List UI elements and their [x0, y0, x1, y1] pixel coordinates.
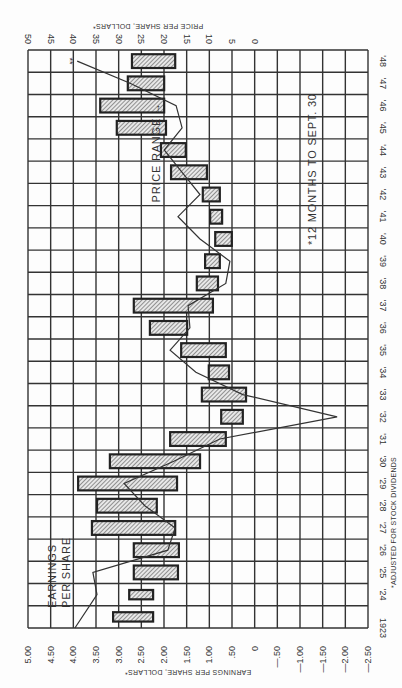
- year-label: '26: [378, 544, 388, 556]
- price-range-bar: [197, 277, 218, 291]
- earnings-tick: 2.00: [159, 646, 169, 664]
- earnings-tick: 5.00: [23, 646, 33, 664]
- year-label: '42: [378, 189, 388, 201]
- earnings-tick: 3.50: [91, 646, 101, 664]
- year-label: 1923: [378, 618, 388, 638]
- earnings-tick: —.50: [272, 646, 282, 668]
- earnings-tick: —2.50: [363, 646, 373, 673]
- price-tick: 25: [136, 34, 146, 44]
- year-label: '37: [378, 300, 388, 312]
- price-range-bar: [181, 343, 226, 357]
- price-range-bar: [134, 299, 213, 313]
- earnings-tick: 4.50: [46, 646, 56, 664]
- footnote: *ADJUSTED FOR STOCK DIVIDENDS: [390, 457, 397, 588]
- price-range-bar: [150, 321, 187, 335]
- price-range-bar: [210, 210, 222, 224]
- year-label: '35: [378, 344, 388, 356]
- year-label: '40: [378, 233, 388, 245]
- earnings-tick: 0: [250, 646, 260, 651]
- earnings-axis-title: EARNINGS PER SHARE, DOLLARS*: [125, 669, 252, 676]
- year-label: '28: [378, 500, 388, 512]
- year-label: '25: [378, 567, 388, 579]
- year-label: '32: [378, 411, 388, 423]
- year-label: '34: [378, 366, 388, 378]
- earnings-label: EARNINGS: [46, 544, 58, 608]
- double-star-marker: **: [65, 58, 75, 66]
- year-label: '29: [378, 478, 388, 490]
- price-range-bar: [92, 521, 175, 535]
- earnings-tick: —1.50: [318, 646, 328, 673]
- price-tick: 50: [23, 34, 33, 44]
- price-range-bar: [129, 590, 153, 599]
- price-tick: 5: [227, 39, 237, 44]
- year-label: '45: [378, 122, 388, 134]
- year-label: '39: [378, 255, 388, 267]
- year-label: '33: [378, 389, 388, 401]
- price-tick: 20: [159, 34, 169, 44]
- year-label: '38: [378, 278, 388, 290]
- price-tick: 40: [68, 34, 78, 44]
- earnings-tick: .50: [227, 646, 237, 659]
- year-label: '48: [378, 55, 388, 67]
- earnings-tick: 3.00: [114, 646, 124, 664]
- price-range-bar: [132, 54, 175, 68]
- price-range-bar: [203, 188, 220, 202]
- chart-stage: 5.004.504.003.503.002.502.001.501.00.500…: [0, 0, 402, 688]
- price-range-bar: [215, 232, 232, 246]
- year-label: '31: [378, 433, 388, 445]
- earnings-tick: 4.00: [68, 646, 78, 664]
- price-range-bar: [205, 254, 220, 268]
- price-tick: 15: [182, 34, 192, 44]
- year-label: '30: [378, 455, 388, 467]
- year-label: '47: [378, 77, 388, 89]
- year-label: '44: [378, 144, 388, 156]
- price-range-bar: [134, 566, 178, 580]
- price-range-bar: [134, 543, 179, 557]
- price-range-bar: [202, 388, 246, 402]
- year-label: '36: [378, 322, 388, 334]
- year-label: '24: [378, 589, 388, 601]
- price-range-bar: [78, 477, 177, 491]
- price-range-bar: [113, 612, 153, 621]
- price-tick: 0: [250, 39, 260, 44]
- earnings-tick: 1.00: [204, 646, 214, 664]
- price-range-bar: [209, 365, 229, 379]
- price-range-bar: [221, 410, 243, 424]
- price-tick: 10: [204, 34, 214, 44]
- earnings-tick: 1.50: [182, 646, 192, 664]
- earnings-label: PER SHARE: [60, 537, 72, 608]
- price-tick: 45: [46, 34, 56, 44]
- price-range-bar: [171, 165, 207, 179]
- year-label: '46: [378, 100, 388, 112]
- earnings-tick: —2.00: [340, 646, 350, 673]
- price-axis-title: PRICE PER SHARE, DOLLARS*: [93, 23, 204, 30]
- price-range-bar: [110, 454, 200, 468]
- earnings-tick: 2.50: [136, 646, 146, 664]
- price-tick: 30: [114, 34, 124, 44]
- year-label: '41: [378, 211, 388, 223]
- price-range-bar: [97, 499, 157, 513]
- months-note: *12 MONTHS TO SEPT. 30: [306, 93, 318, 245]
- price-range-bar: [170, 432, 226, 446]
- price-range-bar: [128, 76, 164, 90]
- earnings-tick: —1.00: [295, 646, 305, 673]
- year-label: '27: [378, 522, 388, 534]
- year-label: '43: [378, 166, 388, 178]
- price-tick: 35: [91, 34, 101, 44]
- earnings-price-chart: 5.004.504.003.503.002.502.001.501.00.500…: [0, 0, 402, 688]
- price-range-label: PRICE RANGE →: [150, 102, 162, 202]
